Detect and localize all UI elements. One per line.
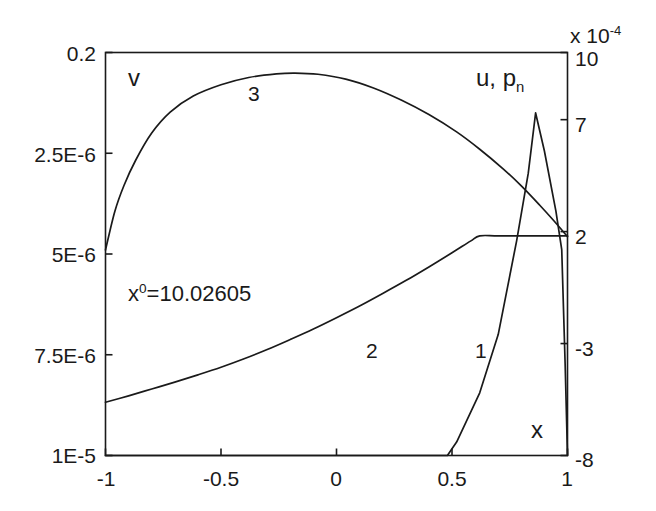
multiplier-exponent: -4 — [610, 23, 622, 38]
plot-area — [0, 0, 656, 511]
curve-label-1: 1 — [475, 340, 487, 361]
right-axis-label-subscript: n — [516, 79, 524, 95]
right-tick-label-0: 10 — [575, 48, 598, 69]
right-axis-label: u, pn — [476, 66, 524, 95]
data-curves — [106, 73, 568, 455]
left-axis-label: v — [128, 66, 140, 90]
left-tick-label-3: 7.5E-6 — [0, 345, 96, 366]
right-tick-label-2: 2 — [575, 226, 587, 247]
multiplier-base: x 10 — [570, 24, 610, 47]
right-tick-label-3: -3 — [575, 338, 594, 359]
right-axis-multiplier: x 10-4 — [570, 24, 621, 46]
x0-annotation: x0=10.02605 — [128, 282, 251, 305]
axes-frame — [106, 53, 568, 456]
x-axis-label: x — [531, 418, 543, 442]
annotation-superscript: 0 — [139, 281, 147, 296]
bottom-tick-label-2: 0 — [330, 468, 342, 489]
bottom-tick-label-4: 1 — [561, 468, 573, 489]
bottom-tick-label-1: -0.5 — [203, 468, 239, 489]
left-tick-label-1: 2.5E-6 — [0, 144, 96, 165]
left-tick-label-0: 0.2 — [0, 43, 96, 64]
left-tick-label-2: 5E-6 — [0, 244, 96, 265]
annotation-base: x — [128, 281, 139, 306]
right-tick-label-1: 7 — [575, 114, 587, 135]
left-axis-ticks — [106, 53, 113, 456]
right-axis-label-main: u, p — [476, 64, 516, 91]
bottom-tick-label-3: 0.5 — [437, 468, 466, 489]
curve-3 — [106, 73, 568, 250]
bottom-axis-ticks — [106, 449, 568, 456]
right-tick-label-4: -8 — [575, 449, 594, 470]
bottom-tick-label-0: -1 — [97, 468, 116, 489]
curve-label-2: 2 — [366, 340, 378, 361]
figure-canvas: 0.2 2.5E-6 5E-6 7.5E-6 1E-5 10 7 2 -3 -8… — [0, 0, 656, 511]
curve-label-3: 3 — [248, 83, 260, 104]
annotation-value: =10.02605 — [147, 281, 252, 306]
curve-2 — [106, 235, 568, 402]
left-tick-label-4: 1E-5 — [0, 445, 96, 466]
